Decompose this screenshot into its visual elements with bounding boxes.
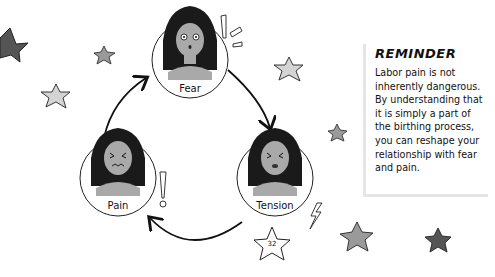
star-icon bbox=[425, 228, 451, 252]
node-label-fear: Fear bbox=[160, 83, 220, 94]
reminder-title: REMINDER bbox=[375, 46, 456, 61]
star-icon bbox=[0, 28, 28, 62]
star-icon bbox=[94, 46, 115, 64]
star-icon bbox=[274, 57, 303, 81]
reminder-panel: REMINDER Labor pain is not inherently da… bbox=[363, 44, 488, 197]
star-icon bbox=[340, 222, 373, 251]
node-label-pain: Pain bbox=[88, 200, 148, 211]
node-tension bbox=[237, 128, 322, 229]
arrow-pain-to-fear bbox=[104, 78, 146, 138]
star-icon bbox=[41, 84, 70, 108]
page-number: 32 bbox=[262, 240, 282, 248]
arrow-fear-to-tension bbox=[228, 70, 270, 128]
reminder-body: Labor pain is not inherently dangerous. … bbox=[375, 66, 487, 175]
node-label-tension: Tension bbox=[245, 200, 305, 211]
arrow-tension-to-pain bbox=[150, 218, 242, 240]
star-icon bbox=[328, 124, 347, 141]
